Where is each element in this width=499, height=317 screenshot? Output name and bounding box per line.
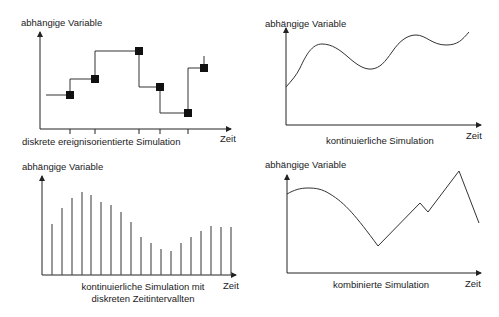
step-line xyxy=(46,51,204,113)
panel-continuous-discrete-intervals: abhängige Variable Zeit kontinuierliche … xyxy=(22,161,239,304)
panel-continuous: abhängige Variable Zeit kontinuierliche … xyxy=(265,18,482,146)
stem-bars xyxy=(52,192,231,275)
event-ticks xyxy=(70,129,188,134)
panel-caption: kombinierte Simulation xyxy=(333,279,429,290)
panel-discrete-event: abhängige Variable Zeit diskrete ereigni… xyxy=(21,17,236,147)
panel-caption: kontinuierliche Simulation xyxy=(326,135,434,146)
y-axis-label: abhängige Variable xyxy=(21,17,102,28)
y-axis-label: abhängige Variable xyxy=(265,18,346,29)
simulation-types-diagram: abhängige Variable Zeit diskrete ereigni… xyxy=(0,0,499,317)
panel-combined: abhängige Variable Zeit kombinierte Simu… xyxy=(265,159,481,290)
y-axis-label: abhängige Variable xyxy=(22,161,103,172)
panel-caption-line2: diskreten Zeitintervallten xyxy=(92,293,195,304)
continuous-curve xyxy=(286,32,469,87)
x-axis-label: Zeit xyxy=(465,278,481,289)
panel-caption: diskrete ereignisorientierte Simulation xyxy=(22,136,180,147)
x-axis-label: Zeit xyxy=(220,133,236,144)
event-markers xyxy=(66,47,208,117)
x-axis-label: Zeit xyxy=(223,280,239,291)
panel-caption: kontinuierliche Simulation mit xyxy=(81,281,204,292)
y-axis-label: abhängige Variable xyxy=(265,159,346,170)
x-axis-label: Zeit xyxy=(466,130,482,141)
combined-curve xyxy=(287,171,479,246)
